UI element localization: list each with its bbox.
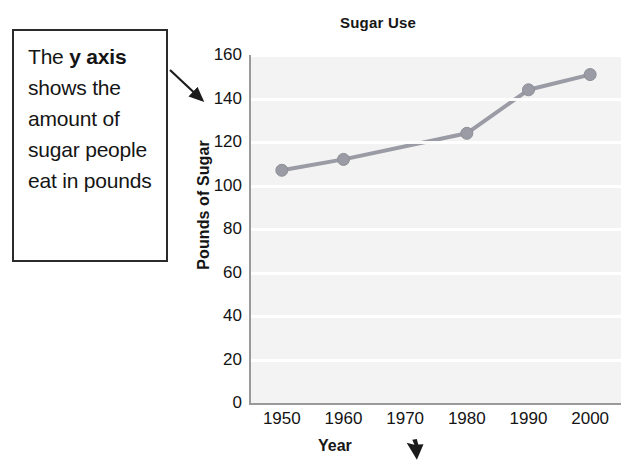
y-axis-tick-60: 60 xyxy=(190,263,242,283)
gridline xyxy=(251,272,621,275)
callout-text: The y axis shows the amount of sugar peo… xyxy=(28,41,154,196)
y-axis-tick-0: 0 xyxy=(190,393,242,413)
x-axis-tick-2000: 2000 xyxy=(560,409,620,429)
plot-area xyxy=(251,55,621,403)
gridline xyxy=(251,98,621,101)
series-line xyxy=(282,75,590,171)
gridline xyxy=(251,315,621,318)
y-axis-tick-100: 100 xyxy=(190,176,242,196)
x-axis-tick-1950: 1950 xyxy=(252,409,312,429)
x-axis-tick-1970: 1970 xyxy=(375,409,435,429)
x-axis-line xyxy=(249,403,621,405)
x-axis-tick-1960: 1960 xyxy=(314,409,374,429)
data-point-1960 xyxy=(338,153,350,165)
chart-container: Sugar Use Pounds of Sugar 16014012010080… xyxy=(168,0,644,466)
callout-box: The y axis shows the amount of sugar peo… xyxy=(12,29,168,262)
y-axis-tick-120: 120 xyxy=(190,132,242,152)
gridline xyxy=(251,54,621,57)
callout-text-after: shows the amount of sugar people eat in … xyxy=(28,76,152,192)
gridline xyxy=(251,185,621,188)
y-axis-line xyxy=(249,55,251,404)
data-point-1990 xyxy=(523,84,535,96)
x-axis-tick-labels: 195019601970198019902000 xyxy=(251,409,621,433)
callout-text-before: The xyxy=(28,45,69,68)
x-axis-tick-1990: 1990 xyxy=(499,409,559,429)
y-axis-tick-20: 20 xyxy=(190,350,242,370)
callout-text-bold: y axis xyxy=(69,45,126,68)
y-axis-tick-80: 80 xyxy=(190,219,242,239)
y-axis-tick-40: 40 xyxy=(190,306,242,326)
y-axis-tick-140: 140 xyxy=(190,89,242,109)
data-point-1950 xyxy=(276,164,288,176)
x-axis-title: Year xyxy=(318,437,352,455)
y-axis-tick-labels: 160140120100806040200 xyxy=(190,0,242,466)
data-point-1980 xyxy=(461,127,473,139)
gridline xyxy=(251,141,621,144)
y-axis-tick-160: 160 xyxy=(190,45,242,65)
x-axis-tick-1980: 1980 xyxy=(437,409,497,429)
cursor-arrow-icon xyxy=(400,436,426,462)
data-point-2000 xyxy=(584,69,596,81)
gridline xyxy=(251,359,621,362)
gridline xyxy=(251,228,621,231)
